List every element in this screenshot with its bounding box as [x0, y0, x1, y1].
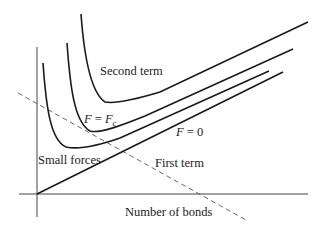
first-term-line [37, 72, 283, 194]
label-f-eq-fc: F = Fc [83, 112, 117, 128]
label-first-term: First term [155, 156, 204, 170]
label-f-eq-zero: F = 0 [175, 125, 203, 139]
bond-force-diagram: Second term F = Fc F = 0 Small forces Fi… [0, 0, 325, 236]
label-second-term: Second term [100, 64, 163, 78]
label-small-forces: Small forces [38, 153, 101, 167]
label-x-axis: Number of bonds [125, 205, 213, 219]
